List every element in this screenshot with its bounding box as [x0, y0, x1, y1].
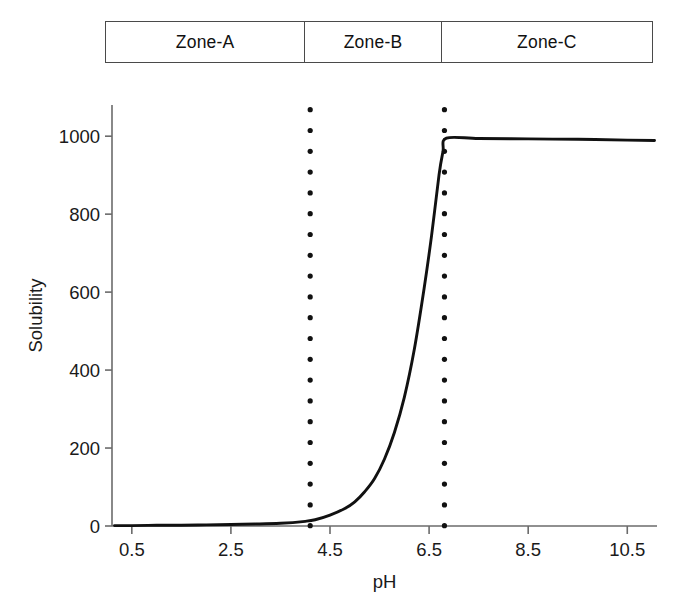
zone-marker-dot: [442, 190, 447, 195]
zone-marker-dot: [308, 253, 313, 258]
zone-marker-dot: [308, 398, 313, 403]
axis-labels-group: 020040060080010000.52.54.56.58.510.5pHSo…: [25, 126, 645, 592]
x-axis-title: pH: [373, 571, 397, 592]
zone-marker-dot: [308, 107, 313, 112]
y-tick-label: 800: [69, 204, 100, 225]
x-tick-label: 6.5: [416, 539, 442, 560]
zone-marker-dot: [308, 169, 313, 174]
y-tick-label: 200: [69, 438, 100, 459]
zone-marker-dot: [442, 273, 447, 278]
zone-marker-dot: [308, 336, 313, 341]
zone-marker-dot: [308, 377, 313, 382]
zone-marker-dot: [442, 128, 447, 133]
y-tick-label: 400: [69, 360, 100, 381]
zone-marker-dot: [442, 523, 447, 528]
x-tick-label: 4.5: [317, 539, 343, 560]
zone-marker-dot: [442, 481, 447, 486]
zone-marker-dot: [308, 128, 313, 133]
zone-marker-dot: [442, 107, 447, 112]
solubility-ph-chart: 020040060080010000.52.54.56.58.510.5pHSo…: [0, 0, 676, 613]
zone-marker-dot: [308, 315, 313, 320]
zone-marker-dot: [442, 336, 447, 341]
zone-marker-dot: [308, 232, 313, 237]
x-tick-label: 10.5: [609, 539, 645, 560]
zone-marker-dot: [442, 211, 447, 216]
zone-marker-dot: [308, 357, 313, 362]
zone-marker-dot: [308, 461, 313, 466]
y-tick-label: 0: [90, 516, 100, 537]
zone-marker-dot: [442, 419, 447, 424]
zone-marker-dot: [442, 377, 447, 382]
zone-marker-dot: [308, 149, 313, 154]
zone-marker-dot: [308, 273, 313, 278]
zone-marker-dot: [442, 232, 447, 237]
zone-marker-dot: [308, 419, 313, 424]
zone-marker-dot: [442, 398, 447, 403]
zone-marker-dot: [308, 190, 313, 195]
y-tick-label: 600: [69, 282, 100, 303]
zone-marker-dot: [442, 315, 447, 320]
zone-marker-dot: [308, 294, 313, 299]
figure-container: Zone-A Zone-B Zone-C 020040060080010000.…: [0, 0, 676, 613]
zone-marker-dot: [308, 481, 313, 486]
zone-marker-dot: [442, 440, 447, 445]
zone-marker-dot: [308, 440, 313, 445]
y-axis-title: Solubility: [25, 278, 46, 353]
zone-marker-dot: [442, 294, 447, 299]
zone-marker-dot: [308, 211, 313, 216]
zone-marker-dot: [308, 502, 313, 507]
solubility-curve: [114, 137, 654, 525]
zone-marker-dot: [442, 461, 447, 466]
x-tick-label: 2.5: [218, 539, 244, 560]
zone-marker-dot: [442, 502, 447, 507]
data-series-group: [114, 137, 654, 525]
y-tick-label: 1000: [59, 126, 100, 147]
x-tick-label: 8.5: [515, 539, 541, 560]
zone-marker-dot: [442, 169, 447, 174]
vertical-zone-markers: [308, 107, 447, 528]
zone-marker-dot: [308, 523, 313, 528]
x-tick-label: 0.5: [119, 539, 145, 560]
zone-marker-dot: [442, 253, 447, 258]
zone-marker-dot: [442, 357, 447, 362]
